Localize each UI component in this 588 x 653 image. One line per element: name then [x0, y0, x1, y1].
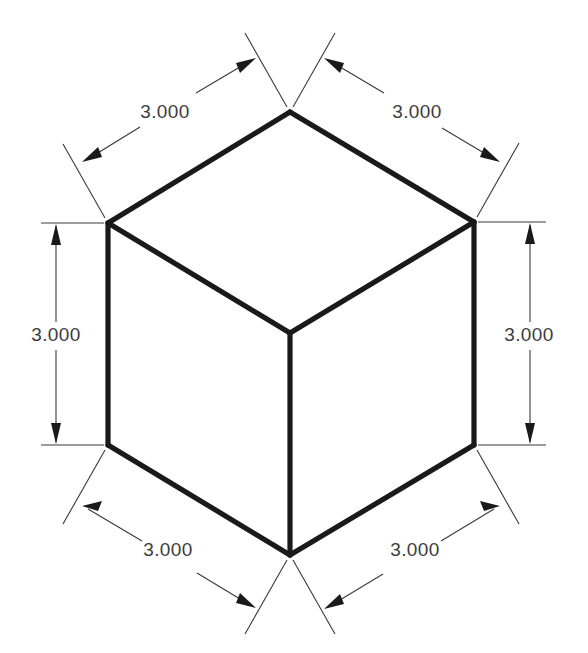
arrow-head [324, 58, 344, 73]
isometric-cube-drawing: 3.000 3.000 3.000 [0, 0, 588, 653]
arrow-head [51, 224, 61, 245]
dimension-bottom-right-edge: 3.000 [293, 450, 519, 634]
arrow-head [525, 223, 535, 244]
arrow-head [324, 594, 344, 609]
extension-line [293, 560, 335, 634]
arrow-head [82, 147, 102, 162]
dimension-line [441, 509, 494, 541]
arrow-head [525, 423, 535, 444]
arrow-head [51, 423, 61, 444]
dimension-left-vertical-edge: 3.000 [31, 223, 104, 445]
cube-edge-top-right [290, 112, 474, 222]
arrow-head [236, 593, 256, 608]
arrow-head [82, 501, 102, 511]
dimension-value-left-vertical: 3.000 [31, 324, 81, 345]
dimension-line [88, 509, 142, 541]
dimension-value-top-right: 3.000 [392, 101, 442, 122]
extension-line [293, 33, 335, 107]
dimension-right-vertical-edge: 3.000 [478, 222, 554, 445]
extension-line [63, 450, 105, 524]
extension-line [477, 450, 519, 524]
extension-line [245, 33, 287, 107]
technical-drawing-canvas: 3.000 3.000 3.000 [0, 0, 588, 653]
arrow-head [480, 501, 500, 511]
cube-object-outline [108, 112, 474, 555]
dimension-top-left-edge: 3.000 [63, 33, 287, 218]
cube-edge-bottom-left [108, 445, 290, 555]
arrow-head [480, 147, 500, 162]
cube-edge-top-left [108, 112, 290, 223]
cube-edge-interior-left [108, 223, 290, 333]
cube-edge-bottom-right [290, 445, 474, 555]
arrow-head [236, 58, 256, 73]
dimension-value-top-left: 3.000 [140, 101, 190, 122]
dimension-top-right-edge: 3.000 [293, 33, 519, 217]
dimension-value-bottom-left: 3.000 [143, 539, 193, 560]
dimension-value-right-vertical: 3.000 [504, 324, 554, 345]
cube-edge-interior-right [290, 222, 474, 333]
dimension-value-bottom-right: 3.000 [390, 539, 440, 560]
extension-line [245, 560, 287, 634]
dimension-bottom-left-edge: 3.000 [63, 450, 287, 634]
